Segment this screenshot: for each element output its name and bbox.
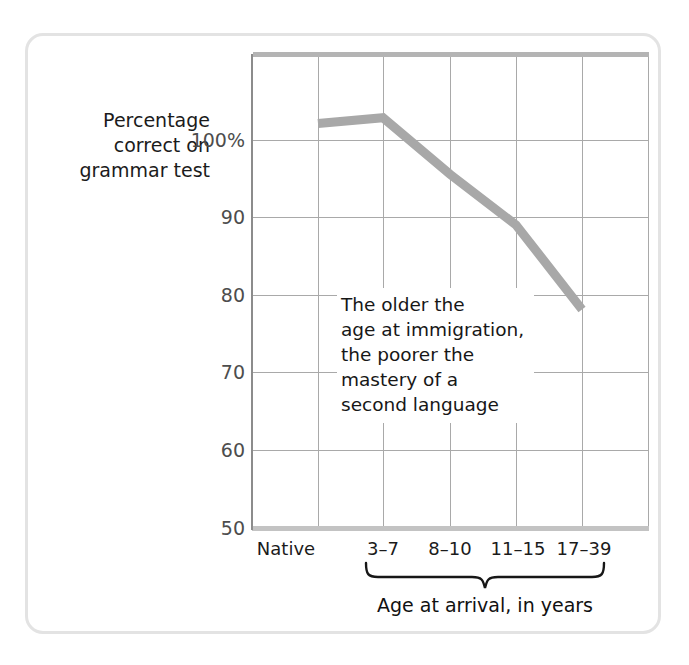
y-tick-label-80: 80 — [221, 284, 245, 306]
y-tick-label-50: 50 — [221, 517, 245, 539]
x-tick-label-11-15: 11–15 — [491, 538, 546, 559]
plot-top-rule — [253, 52, 649, 57]
gridline-y-60 — [253, 450, 649, 451]
y-axis-line — [251, 54, 253, 530]
gridline-y-90 — [253, 217, 649, 218]
y-tick-label-70: 70 — [221, 361, 245, 383]
chart-figure: Percentage correct on grammar test 100% … — [0, 0, 689, 665]
x-tick-label-3-7: 3–7 — [367, 538, 399, 559]
gridline-x-right — [648, 56, 649, 529]
x-tick-label-native: Native — [257, 538, 315, 559]
x-tick-label-8-10: 8–10 — [428, 538, 471, 559]
x-axis-title: Age at arrival, in years — [377, 594, 593, 616]
gridline-x-17-39 — [582, 56, 583, 529]
y-tick-label-90: 90 — [221, 206, 245, 228]
y-tick-label-100: 100% — [191, 129, 245, 151]
chart-annotation: The older the age at immigration, the po… — [337, 288, 534, 423]
x-tick-label-17-39: 17–39 — [557, 538, 612, 559]
y-tick-label-60: 60 — [221, 439, 245, 461]
x-axis-line — [252, 526, 649, 531]
y-axis-tick-labels: 100% 90 80 70 60 50 — [160, 0, 245, 665]
gridline-y-100 — [253, 140, 649, 141]
gridline-x-native — [318, 56, 319, 529]
